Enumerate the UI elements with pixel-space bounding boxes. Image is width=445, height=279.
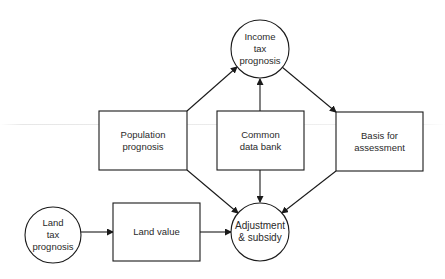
node-land-value [113,203,200,261]
edge-basis-to-adjustment [282,171,336,213]
edge-income-to-basis [282,67,336,112]
flow-diagram [0,0,445,279]
node-basis-for-assessment [336,112,423,171]
node-income-tax-prognosis [231,20,289,78]
nodes [25,20,423,263]
edge-population-to-income [187,67,237,111]
node-common-data-bank [217,111,304,170]
node-land-tax-prognosis [25,207,81,263]
node-adjustment-subsidy [231,203,289,261]
node-population-prognosis [99,111,187,170]
